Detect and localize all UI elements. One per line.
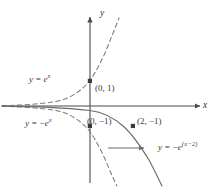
point-label-0-1: (0, 1) bbox=[95, 83, 115, 93]
curve-label-negative-e-to-the-x-minus-2: y = −e(x−2) bbox=[158, 143, 198, 152]
curve-label-e-to-the-x: y = ex bbox=[29, 75, 51, 84]
curve-label-negative-e-to-the-x: y = −ex bbox=[25, 119, 52, 128]
point-marker-0-1 bbox=[88, 79, 92, 83]
point-label-0-neg1: (0, −1) bbox=[87, 116, 112, 126]
x-axis-label: x bbox=[203, 100, 207, 110]
point-marker-2-neg1 bbox=[131, 124, 135, 128]
plot-canvas bbox=[0, 0, 217, 190]
exponential-graph-figure: y x y = ex y = −ex y = −e(x−2) (0, 1) (0… bbox=[0, 0, 217, 190]
point-label-2-neg1: (2, −1) bbox=[137, 116, 162, 126]
y-axis-label: y bbox=[100, 8, 104, 18]
